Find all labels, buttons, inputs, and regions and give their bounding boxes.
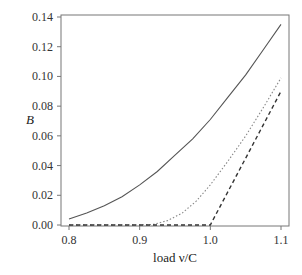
x-tick-label: 1.0	[203, 233, 218, 247]
x-tick-label: 1.1	[274, 233, 289, 247]
y-tick-label: 0.14	[32, 10, 53, 24]
y-axis: 0.000.020.040.060.080.100.120.14	[32, 10, 61, 232]
series-dashed-line	[69, 91, 281, 225]
chart: 0.000.020.040.060.080.100.120.14 0.80.91…	[0, 0, 302, 275]
y-tick-label: 0.12	[32, 40, 53, 54]
y-tick-label: 0.06	[32, 129, 53, 143]
x-tick-label: 0.8	[62, 233, 77, 247]
y-axis-title: B	[26, 112, 34, 127]
y-tick-label: 0.00	[32, 218, 53, 232]
y-tick-label: 0.10	[32, 69, 53, 83]
x-axis: 0.80.91.01.1	[62, 226, 289, 247]
series-group	[69, 24, 281, 225]
y-tick-label: 0.04	[32, 159, 53, 173]
x-tick-label: 0.9	[132, 233, 147, 247]
x-axis-title: load ν/C	[153, 250, 197, 265]
series-solid-line	[69, 24, 281, 219]
y-tick-label: 0.02	[32, 188, 53, 202]
y-tick-label: 0.08	[32, 99, 53, 113]
plot-frame	[61, 15, 289, 226]
